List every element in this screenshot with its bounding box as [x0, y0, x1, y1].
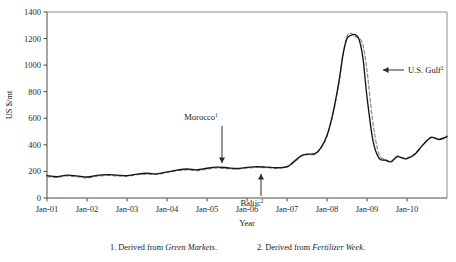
baltic-annotation: Baltic2: [240, 174, 264, 208]
y-axis-tick-label: 1400: [24, 7, 41, 17]
footnote-2-source: Fertilizer Week: [312, 243, 363, 252]
footnote-2-number: 2. Derived from: [257, 243, 312, 252]
footnote-1: 1. Derived from Green Markets.: [110, 243, 217, 252]
x-axis-title: Year: [239, 218, 255, 228]
y-axis-title: US $/mt: [4, 90, 14, 119]
us-gulf-annotation-superscript: 2: [441, 65, 444, 71]
morocco-annotation-label: Morocco1: [184, 112, 218, 122]
x-axis-tick-label: Jan-05: [196, 204, 219, 214]
chart-figure: 0200400600800100012001400Jan-01Jan-02Jan…: [0, 0, 456, 262]
baltic-annotation-arrow-head: [258, 174, 264, 180]
x-axis-tick-label: Jan-04: [156, 204, 179, 214]
morocco-annotation-superscript: 1: [215, 112, 218, 118]
footnote-2-terminator: .: [363, 243, 365, 252]
morocco-annotation: Morocco1: [184, 112, 225, 163]
x-axis-tick-label: Jan-08: [316, 204, 339, 214]
baltic-annotation-label: Baltic2: [240, 198, 263, 208]
y-axis-tick-label: 200: [28, 166, 41, 176]
series-line-dashed: [47, 33, 447, 178]
x-axis-tick-label: Jan-03: [116, 204, 139, 214]
y-axis-tick-label: 0: [37, 193, 41, 203]
y-axis-tick-label: 400: [28, 140, 41, 150]
x-axis-tick-label: Jan-07: [276, 204, 299, 214]
y-axis-tick-label: 1200: [24, 34, 41, 44]
y-axis-tick-label: 600: [28, 113, 41, 123]
chart-axes: [47, 12, 447, 198]
morocco-annotation-arrow-head: [219, 158, 225, 164]
footnote-1-source: Green Markets: [165, 243, 215, 252]
baltic-annotation-superscript: 2: [261, 198, 264, 204]
y-axis-tick-label: 1000: [24, 60, 41, 70]
footnote-1-number: 1. Derived from: [110, 243, 165, 252]
price-line-chart: 0200400600800100012001400Jan-01Jan-02Jan…: [0, 0, 456, 262]
series-line-solid: [47, 34, 447, 177]
us-gulf-annotation-label: U.S. Gulf2: [408, 65, 444, 75]
x-axis-tick-label: Jan-02: [76, 204, 99, 214]
footnote-1-terminator: .: [215, 243, 217, 252]
x-axis-tick-label: Jan-10: [396, 204, 419, 214]
plot-frame: [47, 12, 447, 198]
footnote-2: 2. Derived from Fertilizer Week.: [257, 243, 365, 252]
y-axis-tick-label: 800: [28, 87, 41, 97]
us-gulf-annotation: U.S. Gulf2: [383, 65, 444, 75]
x-axis-tick-label: Jan-01: [36, 204, 59, 214]
x-axis-tick-label: Jan-09: [356, 204, 379, 214]
us-gulf-annotation-arrow-head: [383, 67, 389, 73]
